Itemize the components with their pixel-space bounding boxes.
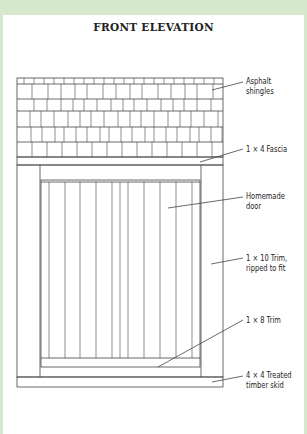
elevation-drawing xyxy=(0,0,307,434)
label-fascia: 1 × 4 Fascia xyxy=(246,144,287,154)
label-timber-skid: 4 × 4 Treated timber skid xyxy=(246,370,292,390)
label-1x10-trim: 1 × 10 Trim, ripped to fit xyxy=(246,253,287,273)
label-homemade-door: Homemade door xyxy=(246,191,285,211)
fascia-board xyxy=(17,157,223,165)
timber-skid xyxy=(17,377,223,387)
label-1x8-trim: 1 × 8 Trim xyxy=(246,315,281,325)
label-asphalt-shingles: Asphalt shingles xyxy=(246,76,274,96)
